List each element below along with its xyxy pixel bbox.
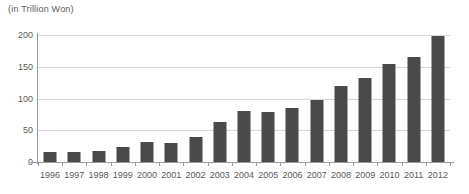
x-axis-tick — [305, 162, 306, 166]
x-axis-tick — [256, 162, 257, 166]
x-axis-labels: 1996199719981999200020012002200320042005… — [38, 170, 450, 190]
bar-slot — [256, 35, 280, 162]
bar[interactable] — [407, 57, 420, 162]
bar[interactable] — [68, 152, 81, 162]
bar[interactable] — [237, 111, 250, 162]
x-axis-tick — [135, 162, 136, 166]
bar[interactable] — [44, 152, 57, 162]
x-axis-tick-label: 2003 — [210, 170, 230, 180]
bar[interactable] — [92, 151, 105, 162]
x-axis-tick-label: 1996 — [40, 170, 60, 180]
bar-slot — [426, 35, 450, 162]
bar-slot — [232, 35, 256, 162]
bar[interactable] — [334, 86, 347, 162]
x-axis-tick — [450, 162, 451, 166]
bar-slot — [135, 35, 159, 162]
x-axis-tick-label: 2008 — [331, 170, 351, 180]
bar[interactable] — [189, 137, 202, 162]
x-axis-tick-label: 1998 — [89, 170, 109, 180]
bar[interactable] — [262, 112, 275, 162]
x-axis-tick — [62, 162, 63, 166]
x-axis-tick — [232, 162, 233, 166]
bar[interactable] — [116, 147, 129, 162]
bar[interactable] — [165, 143, 178, 162]
y-axis-tick-label: 50 — [3, 125, 33, 135]
x-axis-tick — [183, 162, 184, 166]
bar-slot — [377, 35, 401, 162]
bar[interactable] — [141, 142, 154, 162]
y-axis-tick-label: 200 — [3, 30, 33, 40]
x-axis-tick-label: 1999 — [113, 170, 133, 180]
bar-slot — [353, 35, 377, 162]
bar-slot — [208, 35, 232, 162]
bar[interactable] — [359, 78, 372, 162]
x-axis-tick-label: 2012 — [428, 170, 448, 180]
y-axis-tick-label: 150 — [3, 62, 33, 72]
bars-layer — [38, 35, 450, 162]
bar-slot — [86, 35, 110, 162]
x-axis-ticks — [38, 162, 450, 166]
x-axis-tick-label: 2001 — [161, 170, 181, 180]
y-axis-tick-label: 100 — [3, 94, 33, 104]
x-axis-tick-label: 1997 — [64, 170, 84, 180]
x-axis-tick — [377, 162, 378, 166]
bar-slot — [38, 35, 62, 162]
x-axis-tick — [111, 162, 112, 166]
bar-slot — [280, 35, 304, 162]
x-axis-tick-label: 2010 — [379, 170, 399, 180]
bar-slot — [111, 35, 135, 162]
bar[interactable] — [310, 100, 323, 162]
bar[interactable] — [383, 64, 396, 162]
x-axis-tick-label: 2006 — [282, 170, 302, 180]
x-axis-tick — [426, 162, 427, 166]
x-axis-tick-label: 2011 — [404, 170, 423, 180]
x-axis-tick — [208, 162, 209, 166]
x-axis-tick — [86, 162, 87, 166]
bar-slot — [159, 35, 183, 162]
bar[interactable] — [431, 36, 444, 162]
bar-slot — [305, 35, 329, 162]
bar-slot — [402, 35, 426, 162]
x-axis-tick-label: 2005 — [258, 170, 278, 180]
bar-slot — [329, 35, 353, 162]
x-axis-tick — [280, 162, 281, 166]
x-axis-tick-label: 2007 — [307, 170, 327, 180]
x-axis-tick-label: 2004 — [234, 170, 254, 180]
x-axis-tick-label: 2002 — [186, 170, 206, 180]
x-axis-tick — [38, 162, 39, 166]
x-axis-tick-label: 2000 — [137, 170, 157, 180]
bar-slot — [62, 35, 86, 162]
x-axis-tick — [402, 162, 403, 166]
bar[interactable] — [286, 108, 299, 162]
y-axis-tick-label: 0 — [3, 157, 33, 167]
bar-slot — [183, 35, 207, 162]
x-axis-tick-label: 2009 — [355, 170, 375, 180]
bar-chart: (in Trillion Won) 050100150200 199619971… — [0, 0, 469, 194]
y-axis-labels: 050100150200 — [0, 0, 33, 194]
x-axis-tick — [353, 162, 354, 166]
x-axis-tick — [329, 162, 330, 166]
bar[interactable] — [213, 122, 226, 162]
x-axis-tick — [159, 162, 160, 166]
